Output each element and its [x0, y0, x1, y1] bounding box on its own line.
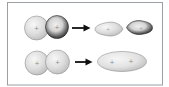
nucleus-plus-mark: + [54, 23, 59, 30]
nucleus-plus-mark: + [106, 26, 110, 32]
orbital-diagram-canvas: + + + + + + + + [0, 0, 169, 87]
nucleus-plus-mark: + [34, 24, 39, 31]
bonding-orbital-ellipse-icon [98, 52, 147, 72]
nucleus-plus-mark: + [55, 58, 60, 65]
nucleus-plus-mark: + [128, 57, 133, 64]
nucleus-plus-mark: + [139, 25, 143, 31]
nucleus-plus-mark: + [34, 59, 39, 66]
nucleus-plus-mark: + [109, 58, 114, 65]
mo-diagram-svg: + + + + + + + + [0, 0, 169, 87]
